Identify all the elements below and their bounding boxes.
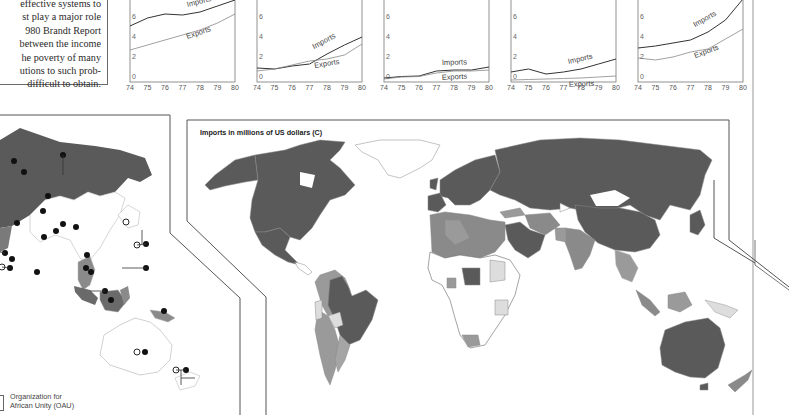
main-world-map — [205, 138, 752, 392]
legend-line-2: African Unity (OAU) — [10, 402, 74, 411]
legend-swatch-oau — [0, 395, 4, 411]
legend-text: Organization for African Unity (OAU) — [10, 393, 74, 410]
map-title: Imports in millions of US dollars (C) — [200, 128, 322, 137]
world-maps — [0, 0, 789, 415]
inset-frame-corner — [714, 180, 755, 263]
